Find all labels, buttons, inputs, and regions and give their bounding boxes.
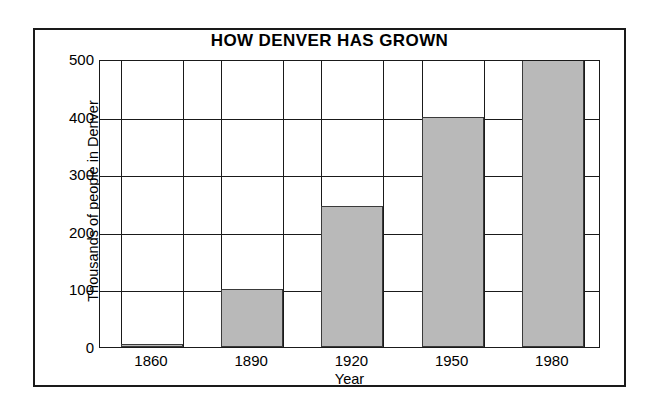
gridline-vertical: [183, 61, 184, 347]
y-tick-label: 0: [54, 340, 94, 355]
bar-1950: [422, 117, 484, 347]
x-axis-title: Year: [99, 371, 600, 387]
x-tick-label: 1920: [335, 352, 368, 369]
chart-title: HOW DENVER HAS GROWN: [33, 31, 626, 51]
y-tick-label: 300: [54, 167, 94, 182]
y-axis-tick-labels: 0100200300400500: [52, 0, 94, 408]
y-tick-label: 100: [54, 282, 94, 297]
gridline-vertical: [584, 61, 585, 347]
x-tick-label: 1950: [435, 352, 468, 369]
gridline-vertical: [484, 61, 485, 347]
bar-1980: [522, 60, 584, 347]
y-tick-label: 500: [54, 52, 94, 67]
bar-1890: [221, 289, 283, 347]
y-tick-label: 400: [54, 110, 94, 125]
bar-1860: [121, 344, 183, 347]
plot-area: [99, 60, 600, 348]
x-tick-label: 1860: [134, 352, 167, 369]
x-tick-label: 1890: [235, 352, 268, 369]
y-tick-label: 200: [54, 225, 94, 240]
gridline-vertical: [383, 61, 384, 347]
bar-1920: [321, 206, 383, 347]
x-tick-label: 1980: [535, 352, 568, 369]
gridline-vertical: [121, 61, 122, 347]
gridline-vertical: [283, 61, 284, 347]
